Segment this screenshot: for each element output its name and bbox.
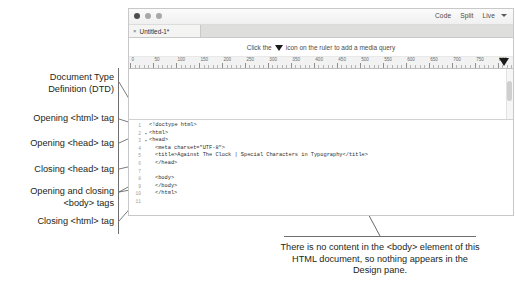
ruler-tick-major bbox=[268, 63, 269, 68]
ruler-tick-minor bbox=[259, 65, 260, 68]
code-line-number: 11 bbox=[129, 198, 143, 206]
code-line-text: <title>Against The Clock | Special Chara… bbox=[149, 152, 513, 160]
document-tab[interactable]: × Untitled-1* bbox=[129, 25, 201, 37]
ruler-tick-minor bbox=[470, 65, 471, 68]
ruler-tick-minor bbox=[190, 65, 191, 68]
ruler-tick-minor bbox=[341, 65, 342, 68]
ruler-tick-minor bbox=[158, 65, 159, 68]
ruler-tick-minor bbox=[323, 65, 324, 68]
code-line-text: </html> bbox=[149, 190, 513, 198]
ruler-tick-minor bbox=[401, 65, 402, 68]
code-line-number: 5 bbox=[129, 152, 143, 160]
ruler-tick-minor bbox=[456, 65, 457, 68]
width-ruler[interactable]: 0501001502002503003504004505005506006507… bbox=[129, 57, 513, 69]
view-mode-live[interactable]: Live bbox=[483, 12, 496, 19]
dreamweaver-window: Code Split Live × Untitled-1* Click the … bbox=[128, 8, 514, 216]
code-line-number: 10 bbox=[129, 190, 143, 198]
view-mode-code[interactable]: Code bbox=[435, 12, 451, 19]
ruler-tick-label: 550 bbox=[384, 57, 392, 62]
ruler-tick-major bbox=[222, 63, 223, 68]
ruler-tick-minor bbox=[433, 65, 434, 68]
media-query-hint-text-before: Click the bbox=[247, 44, 272, 51]
code-line-number: 2 bbox=[129, 130, 143, 138]
ruler-tick-label: 50 bbox=[154, 57, 159, 62]
design-pane-caption: There is no content in the <body> elemen… bbox=[278, 242, 482, 277]
design-pane-scrollbar[interactable] bbox=[506, 69, 513, 119]
code-line-number: 1 bbox=[129, 122, 143, 130]
code-line-number: 9 bbox=[129, 183, 143, 191]
ruler-tick-label: 350 bbox=[292, 57, 300, 62]
chevron-down-icon[interactable] bbox=[501, 14, 507, 17]
media-query-marker-icon[interactable] bbox=[499, 58, 509, 66]
caption-rule bbox=[284, 236, 476, 237]
ruler-tick-label: 300 bbox=[269, 57, 277, 62]
ruler-tick-minor bbox=[139, 65, 140, 68]
ruler-tick-minor bbox=[438, 65, 439, 68]
ruler-tick-minor bbox=[194, 65, 195, 68]
code-line[interactable]: 10</html> bbox=[129, 190, 513, 198]
ruler-tick-minor bbox=[410, 65, 411, 68]
code-line[interactable]: 6</head> bbox=[129, 160, 513, 168]
media-query-hint-text-after: icon on the ruler to add a media query bbox=[286, 44, 395, 51]
close-window-button[interactable] bbox=[134, 13, 140, 19]
ruler-tick-minor bbox=[217, 65, 218, 68]
ruler-tick-minor bbox=[227, 65, 228, 68]
ruler-tick-minor bbox=[309, 65, 310, 68]
annotation-dtd: Document Type Definition (DTD) bbox=[6, 72, 114, 95]
ruler-tick-minor bbox=[305, 65, 306, 68]
code-line[interactable]: 9</body> bbox=[129, 183, 513, 191]
code-line[interactable]: 11 bbox=[129, 198, 513, 206]
ruler-tick-minor bbox=[493, 65, 494, 68]
code-line-number: 3 bbox=[129, 137, 143, 145]
code-line[interactable]: 4<meta charset="UTF-8"> bbox=[129, 145, 513, 153]
scrollbar-thumb[interactable] bbox=[507, 81, 512, 101]
ruler-tick-minor bbox=[318, 65, 319, 68]
ruler-tick-label: 400 bbox=[315, 57, 323, 62]
ruler-tick-label: 650 bbox=[430, 57, 438, 62]
code-line-text: <!doctype html> bbox=[149, 122, 513, 130]
code-pane[interactable]: 1<!doctype html>2▾<html>3▾<head>4<meta c… bbox=[129, 120, 513, 216]
code-line-text: </head> bbox=[149, 160, 513, 168]
code-line[interactable]: 1<!doctype html> bbox=[129, 122, 513, 130]
ruler-tick-minor bbox=[181, 65, 182, 68]
code-line[interactable]: 3▾<head> bbox=[129, 137, 513, 145]
code-line-text: <body> bbox=[149, 175, 513, 183]
ruler-tick-minor bbox=[511, 65, 512, 68]
ruler-tick-minor bbox=[213, 65, 214, 68]
code-line-number: 7 bbox=[129, 168, 143, 176]
annotation-head-close: Closing <head> tag bbox=[6, 164, 114, 176]
zoom-window-button[interactable] bbox=[156, 13, 162, 19]
ruler-tick-minor bbox=[236, 65, 237, 68]
code-line[interactable]: 5<title>Against The Clock | Special Char… bbox=[129, 152, 513, 160]
ruler-tick-minor bbox=[185, 65, 186, 68]
ruler-tick-minor bbox=[162, 65, 163, 68]
ruler-tick-minor bbox=[300, 65, 301, 68]
ruler-tick-minor bbox=[272, 65, 273, 68]
ruler-tick-major bbox=[130, 63, 131, 68]
ruler-tick-minor bbox=[346, 65, 347, 68]
ruler-tick-major bbox=[337, 63, 338, 68]
code-line[interactable]: 7 bbox=[129, 168, 513, 176]
ruler-tick-major bbox=[291, 63, 292, 68]
ruler-tick-minor bbox=[378, 65, 379, 68]
ruler-tick-label: 600 bbox=[407, 57, 415, 62]
design-pane[interactable] bbox=[129, 69, 513, 120]
ruler-tick-minor bbox=[263, 65, 264, 68]
ruler-tick-minor bbox=[254, 65, 255, 68]
ruler-tick-label: 450 bbox=[338, 57, 346, 62]
media-query-hint: Click the icon on the ruler to add a med… bbox=[129, 38, 513, 57]
ruler-tick-label: 700 bbox=[453, 57, 461, 62]
ruler-tick-major bbox=[475, 63, 476, 68]
ruler-tick-minor bbox=[397, 65, 398, 68]
traffic-light-buttons bbox=[134, 13, 162, 19]
minimize-window-button[interactable] bbox=[145, 13, 151, 19]
ruler-tick-minor bbox=[144, 65, 145, 68]
ruler-tick-minor bbox=[488, 65, 489, 68]
ruler-tick-minor bbox=[332, 65, 333, 68]
ruler-tick-major bbox=[452, 63, 453, 68]
code-line[interactable]: 2▾<html> bbox=[129, 130, 513, 138]
view-mode-split[interactable]: Split bbox=[460, 12, 473, 19]
code-line[interactable]: 8<body> bbox=[129, 175, 513, 183]
ruler-tick-minor bbox=[461, 65, 462, 68]
close-icon[interactable]: × bbox=[133, 28, 137, 34]
